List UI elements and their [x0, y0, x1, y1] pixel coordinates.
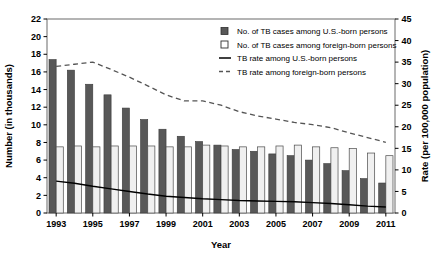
bar-foreign-born [148, 146, 155, 213]
y-axis-left: 0246810121416182022 [31, 14, 47, 218]
legend-filled-square-icon [221, 28, 228, 35]
legend-item: TB rate among U.S.-born persons [219, 54, 357, 63]
bar-group [214, 145, 228, 213]
bar-foreign-born [129, 146, 136, 213]
bar-us-born [250, 151, 257, 213]
y-axis-right-tick-label: 40 [402, 36, 412, 46]
bar-us-born [342, 171, 349, 213]
chart-canvas: 0246810121416182022 051015202530354045 1… [0, 0, 437, 260]
bar-foreign-born [239, 147, 246, 213]
bar-group [269, 146, 283, 213]
x-axis: 1993199519971999200120032005200720092011 [46, 213, 395, 229]
bar-us-born [49, 60, 56, 213]
legend-item: TB rate among foreign-born persons [219, 68, 366, 77]
bar-foreign-born [386, 156, 393, 213]
x-axis-tick-label: 1997 [119, 219, 139, 229]
bar-us-born [360, 179, 367, 213]
y-axis-left-tick-label: 18 [31, 49, 41, 59]
tb-cases-and-rates-chart: 0246810121416182022 051015202530354045 1… [0, 0, 437, 260]
y-axis-right-tick-label: 5 [402, 187, 407, 197]
bar-us-born [287, 156, 294, 213]
y-axis-left-tick-label: 0 [36, 208, 41, 218]
bar-foreign-born [184, 147, 191, 213]
y-axis-right-tick-label: 0 [402, 208, 407, 218]
bar-us-born [269, 154, 276, 213]
bar-foreign-born [368, 153, 375, 213]
x-axis-tick-label: 1995 [83, 219, 103, 229]
y-axis-right-tick-label: 35 [402, 57, 412, 67]
legend-item-label: No. of TB cases among U.S.-born persons [237, 27, 388, 36]
bar-us-born [122, 108, 129, 213]
bar-foreign-born [203, 145, 210, 213]
bar-foreign-born [276, 146, 283, 213]
x-axis-tick-label: 2003 [229, 219, 249, 229]
y-axis-left-tick-label: 2 [36, 191, 41, 201]
y-axis-left-tick-label: 6 [36, 155, 41, 165]
bar-us-born [305, 160, 312, 213]
bar-foreign-born [56, 147, 63, 213]
bar-foreign-born [221, 146, 228, 213]
y-axis-left-tick-label: 16 [31, 67, 41, 77]
bar-us-born [177, 136, 184, 213]
y-axis-right-tick-label: 10 [402, 165, 412, 175]
legend-item-label: TB rate among foreign-born persons [237, 68, 366, 77]
y-axis-right-tick-label: 25 [402, 100, 412, 110]
x-axis-tick-label: 1993 [46, 219, 66, 229]
y-axis-left-title: Number (in thousands) [3, 64, 14, 168]
y-axis-left-tick-label: 22 [31, 14, 41, 24]
legend-item: No. of TB cases among foreign-born perso… [221, 41, 397, 50]
bar-us-born [86, 84, 93, 213]
y-axis-left-tick-label: 8 [36, 138, 41, 148]
bar-foreign-born [93, 147, 100, 213]
legend-item: No. of TB cases among U.S.-born persons [221, 27, 388, 36]
y-axis-left-tick-label: 14 [31, 85, 41, 95]
legend-item-label: TB rate among U.S.-born persons [237, 54, 357, 63]
bar-foreign-born [349, 149, 356, 213]
bar-us-born [67, 70, 74, 213]
y-axis-right-tick-label: 15 [402, 144, 412, 154]
legend-open-square-icon [221, 41, 228, 48]
bar-us-born [196, 142, 203, 213]
bar-us-born [232, 150, 239, 213]
bar-us-born [324, 164, 331, 213]
x-axis-tick-label: 2009 [339, 219, 359, 229]
bar-foreign-born [258, 147, 265, 213]
y-axis-left-tick-label: 4 [36, 173, 41, 183]
x-axis-title: Year [211, 239, 231, 250]
legend-item-label: No. of TB cases among foreign-born perso… [237, 41, 397, 50]
y-axis-right-title: Rate (per 100,000 population) [419, 50, 430, 183]
x-axis-tick-label: 2007 [303, 219, 323, 229]
bar-us-born [104, 95, 111, 213]
bar-foreign-born [294, 145, 301, 213]
y-axis-left-tick-label: 12 [31, 102, 41, 112]
y-axis-left-tick-label: 10 [31, 120, 41, 130]
x-axis-tick-label: 2011 [376, 219, 396, 229]
bar-foreign-born [166, 147, 173, 213]
x-axis-tick-label: 2005 [266, 219, 286, 229]
bar-group [232, 147, 246, 213]
y-axis-right-tick-label: 30 [402, 79, 412, 89]
y-axis-left-tick-label: 20 [31, 32, 41, 42]
x-axis-tick-label: 1999 [156, 219, 176, 229]
bar-foreign-born [74, 146, 81, 213]
bar-group [177, 136, 191, 213]
y-axis-right-tick-label: 20 [402, 122, 412, 132]
y-axis-right-tick-label: 45 [402, 14, 412, 24]
bar-foreign-born [111, 146, 118, 213]
bar-us-born [379, 183, 386, 213]
bar-group [196, 142, 210, 213]
bar-us-born [159, 129, 166, 213]
bar-us-born [214, 145, 221, 213]
bar-us-born [141, 120, 148, 213]
x-axis-tick-label: 2001 [193, 219, 213, 229]
bar-group [250, 147, 264, 213]
y-axis-right: 051015202530354045 [395, 14, 412, 218]
